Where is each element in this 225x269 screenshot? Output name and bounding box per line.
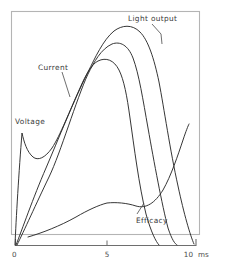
label-voltage: Voltage — [15, 117, 45, 126]
leader-efficacy — [137, 203, 144, 214]
line-chart: Light output Current Voltage Efficacy 0 … — [0, 0, 225, 269]
curve-current — [17, 43, 177, 245]
label-efficacy: Efficacy — [136, 216, 168, 225]
x-tick-label-0: 0 — [12, 250, 17, 259]
label-current: Current — [38, 63, 68, 72]
leader-current — [62, 72, 70, 97]
chart-page: Light output Current Voltage Efficacy 0 … — [0, 0, 225, 269]
x-tick-label-10: 10 — [184, 250, 194, 259]
leader-light-output — [152, 24, 162, 44]
x-tick-label-5: 5 — [105, 250, 110, 259]
label-light-output: Light output — [128, 14, 177, 23]
x-axis-unit-label: ms — [198, 250, 209, 259]
